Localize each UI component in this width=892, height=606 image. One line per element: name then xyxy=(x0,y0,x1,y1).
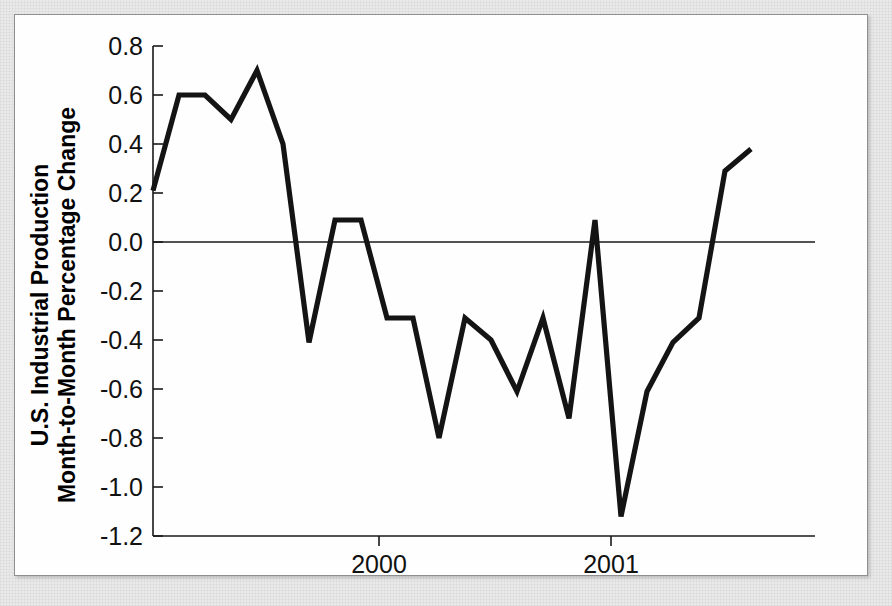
y-tick-marks xyxy=(153,46,163,536)
series-line-industrial-production xyxy=(153,71,751,517)
x-tick-marks xyxy=(379,536,611,546)
y-tick-label: 0.4 xyxy=(108,130,143,158)
x-tick-label: 2001 xyxy=(583,550,639,575)
y-tick-label: -0.6 xyxy=(100,375,143,403)
y-axis-title: U.S. Industrial Production Month-to-Mont… xyxy=(27,107,80,503)
y-tick-label: 0.0 xyxy=(108,228,143,256)
y-tick-label: -0.8 xyxy=(100,424,143,452)
chart-figure-frame: U.S. Industrial Production Month-to-Mont… xyxy=(14,14,868,576)
figure-page: U.S. Industrial Production Month-to-Mont… xyxy=(0,0,892,606)
y-tick-label: -0.4 xyxy=(100,326,143,354)
x-tick-label: 2000 xyxy=(351,550,407,575)
y-tick-labels: 0.8 0.6 0.4 0.2 0.0 -0.2 -0.4 -0.6 -0.8 … xyxy=(100,32,143,550)
y-axis-title-line1: U.S. Industrial Production xyxy=(27,164,53,446)
y-tick-label: -1.0 xyxy=(100,473,143,501)
y-tick-label: 0.6 xyxy=(108,81,143,109)
y-tick-label: 0.8 xyxy=(108,32,143,60)
y-tick-label: -1.2 xyxy=(100,522,143,550)
x-tick-labels: 2000 2001 xyxy=(351,550,639,575)
line-chart: U.S. Industrial Production Month-to-Mont… xyxy=(15,15,867,575)
y-tick-label: -0.2 xyxy=(100,277,143,305)
y-axis-title-line2: Month-to-Month Percentage Change xyxy=(54,107,80,503)
y-tick-label: 0.2 xyxy=(108,179,143,207)
